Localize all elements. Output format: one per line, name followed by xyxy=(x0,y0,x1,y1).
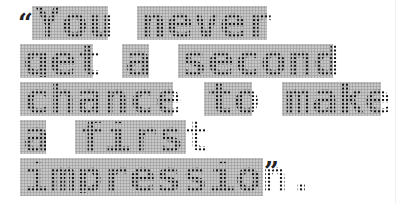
edge-divider xyxy=(395,0,396,204)
word-text: a xyxy=(23,121,50,153)
close-quote-mark: ” xyxy=(264,158,279,184)
word-block: never xyxy=(137,6,267,40)
word-block: get xyxy=(20,44,93,78)
word-text: to xyxy=(207,83,260,115)
word-block: You xyxy=(32,6,108,40)
word-text: second xyxy=(181,45,340,77)
word-block: make xyxy=(282,82,381,116)
word-block: to xyxy=(204,82,252,116)
word-text: chance xyxy=(23,83,182,115)
word-block: a xyxy=(20,120,46,154)
word-block: first xyxy=(75,120,186,154)
word-text: make xyxy=(285,83,391,115)
word-block: a xyxy=(122,44,149,78)
word-block: chance xyxy=(20,82,173,116)
word-text: first xyxy=(78,121,210,153)
open-quote-mark: “ xyxy=(18,10,33,36)
word-text: get xyxy=(23,45,102,77)
word-text: a xyxy=(125,45,152,77)
word-block: impression. xyxy=(20,158,263,196)
word-block: second xyxy=(178,44,333,78)
word-text: never xyxy=(140,7,272,39)
word-text: You xyxy=(35,7,114,39)
